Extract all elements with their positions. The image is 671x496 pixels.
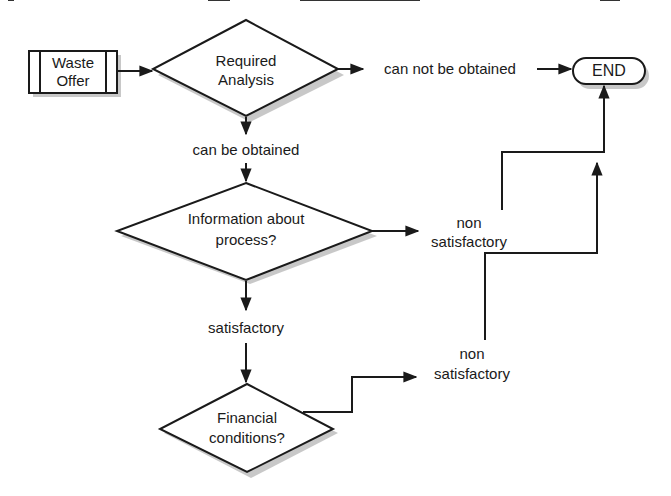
- information-about-process-node[interactable]: Information about process?: [117, 183, 377, 284]
- edge-financial-to-non-satisfactory-2: [303, 377, 416, 412]
- edge-non-satisfactory-1-to-end: [502, 86, 604, 210]
- edge-label-satisfactory: satisfactory: [208, 319, 284, 336]
- financial-conditions-label-line2: conditions?: [209, 429, 285, 446]
- information-about-process-label-line2: process?: [216, 231, 277, 248]
- required-analysis-node[interactable]: Required Analysis: [153, 20, 344, 122]
- information-about-process-label-line1: Information about: [188, 210, 306, 227]
- financial-conditions-label-line1: Financial: [217, 409, 277, 426]
- financial-conditions-node[interactable]: Financial conditions?: [160, 384, 338, 478]
- required-analysis-label-line1: Required: [216, 52, 277, 69]
- edge-label-non-satisfactory-1-line1: non: [456, 214, 481, 231]
- waste-offer-node[interactable]: Waste Offer: [29, 51, 121, 97]
- edge-label-can-not-be-obtained: can not be obtained: [384, 60, 516, 77]
- required-analysis-label-line2: Analysis: [218, 71, 274, 88]
- edge-label-can-be-obtained: can be obtained: [193, 141, 300, 158]
- edge-label-non-satisfactory-2-line1: non: [459, 345, 484, 362]
- edge-label-non-satisfactory-1-line2: satisfactory: [431, 233, 507, 250]
- waste-offer-label-line1: Waste: [52, 54, 94, 71]
- edge-label-non-satisfactory-2-line2: satisfactory: [434, 365, 510, 382]
- end-node[interactable]: END: [573, 58, 649, 89]
- end-label: END: [592, 62, 626, 79]
- flowchart: Waste Offer Required Analysis can not be…: [0, 0, 671, 496]
- waste-offer-label-line2: Offer: [56, 72, 89, 89]
- caption-fragment: [0, 0, 671, 6]
